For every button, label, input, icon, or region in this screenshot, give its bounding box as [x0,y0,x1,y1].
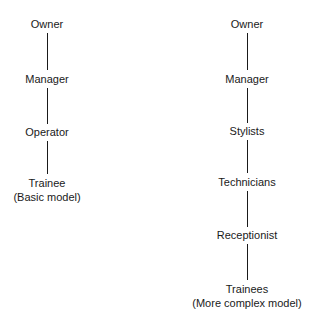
complex-model-caption: (More complex model) [192,297,301,310]
complex-node-technicians: Technicians [218,176,275,189]
basic-node-manager: Manager [25,73,68,86]
connector-line [47,33,48,70]
complex-node-stylists: Stylists [230,125,265,138]
basic-model-caption: (Basic model) [13,191,80,204]
connector-line [47,88,48,124]
complex-node-owner: Owner [231,18,263,31]
connector-line [47,141,48,174]
basic-node-owner: Owner [31,18,63,31]
complex-node-manager: Manager [225,73,268,86]
connector-line [247,191,248,227]
complex-node-trainees: Trainees [226,283,268,296]
basic-node-operator: Operator [25,126,68,139]
complex-node-receptionist: Receptionist [217,229,278,242]
connector-line [247,140,248,173]
connector-line [247,244,248,280]
basic-node-trainee: Trainee [29,177,66,190]
connector-line [247,33,248,70]
connector-line [247,88,248,123]
